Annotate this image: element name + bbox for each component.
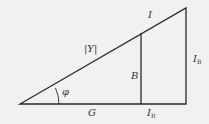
label-susceptance-B: B: [130, 70, 138, 81]
label-admittance-Y: |Y|: [84, 43, 97, 55]
label-angle-phi: φ: [62, 86, 69, 97]
label-conductance-G: G: [88, 107, 96, 118]
admittance-current-triangle-diagram: I |Y| φ G B IR IB: [0, 0, 209, 124]
background: [0, 0, 209, 124]
